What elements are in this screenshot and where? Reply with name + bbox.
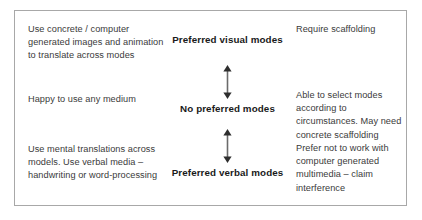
- right-cell-visual: Require scaffolding: [296, 23, 408, 36]
- left-cell-visual: Use concrete / computer generated images…: [28, 23, 164, 63]
- diagram-frame: Use concrete / computer generated images…: [14, 10, 407, 206]
- double-arrow-icon: [221, 129, 234, 163]
- right-cell-neutral: Able to select modes according to circum…: [296, 89, 408, 142]
- mode-label-neutral: No preferred modes: [165, 102, 290, 116]
- right-column: Require scaffolding Able to select modes…: [290, 11, 408, 205]
- center-column: Preferred visual modes No preferred mode…: [165, 11, 290, 205]
- right-cell-verbal: Prefer not to work with computer generat…: [296, 142, 408, 195]
- mode-label-verbal: Preferred verbal modes: [165, 166, 290, 180]
- double-arrow-icon: [221, 65, 234, 99]
- mode-label-visual: Preferred visual modes: [165, 33, 290, 47]
- left-column: Use concrete / computer generated images…: [15, 11, 165, 205]
- left-cell-neutral: Happy to use any medium: [28, 93, 164, 106]
- left-cell-verbal: Use mental translations across models. U…: [28, 143, 164, 183]
